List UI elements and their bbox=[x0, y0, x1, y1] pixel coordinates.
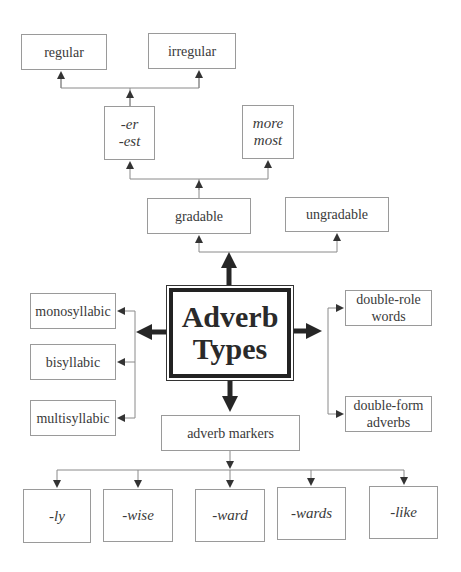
monosyllabic-node: monosyllabic bbox=[30, 293, 116, 329]
center-title-line1: Adverb bbox=[182, 301, 279, 333]
most-label: most bbox=[254, 132, 282, 149]
er-est-node: -er -est bbox=[104, 106, 155, 160]
suffix-like-label: -like bbox=[390, 504, 417, 521]
double-form-adverbs-node: double-form adverbs bbox=[345, 396, 432, 432]
ungradable-label: ungradable bbox=[306, 206, 368, 223]
multisyllabic-node: multisyllabic bbox=[30, 400, 116, 436]
multisyllabic-label: multisyllabic bbox=[36, 410, 109, 427]
suffix-like-node: -like bbox=[369, 486, 438, 539]
irregular-node: irregular bbox=[148, 33, 236, 69]
ungradable-node: ungradable bbox=[285, 197, 389, 232]
monosyllabic-label: monosyllabic bbox=[35, 303, 110, 320]
suffix-ly-node: -ly bbox=[23, 489, 91, 543]
more-label: more bbox=[253, 115, 283, 132]
bisyllabic-label: bisyllabic bbox=[46, 354, 100, 371]
suffix-wards-label: -wards bbox=[291, 505, 332, 522]
adverb-types-center-node: Adverb Types bbox=[166, 285, 294, 381]
double-role-label: double-role bbox=[356, 291, 421, 308]
adverbs-label: adverbs bbox=[367, 414, 411, 431]
double-form-label: double-form bbox=[354, 397, 424, 414]
suffix-ward-node: -ward bbox=[195, 489, 265, 542]
regular-label: regular bbox=[44, 44, 84, 61]
adverb-markers-label: adverb markers bbox=[187, 425, 274, 442]
regular-node: regular bbox=[21, 34, 107, 70]
words-label: words bbox=[371, 308, 405, 325]
center-title-line2: Types bbox=[193, 333, 267, 365]
gradable-label: gradable bbox=[175, 208, 223, 225]
est-label: -est bbox=[119, 133, 141, 150]
suffix-ly-label: -ly bbox=[49, 508, 65, 525]
gradable-node: gradable bbox=[147, 198, 251, 234]
adverb-markers-node: adverb markers bbox=[161, 415, 300, 451]
bisyllabic-node: bisyllabic bbox=[30, 344, 116, 380]
suffix-wards-node: -wards bbox=[277, 487, 346, 540]
suffix-wise-label: -wise bbox=[122, 507, 154, 524]
more-most-node: more most bbox=[242, 105, 294, 159]
suffix-wise-node: -wise bbox=[103, 489, 173, 542]
suffix-ward-label: -ward bbox=[212, 507, 247, 524]
irregular-label: irregular bbox=[168, 43, 216, 60]
er-label: -er bbox=[121, 116, 139, 133]
double-role-words-node: double-role words bbox=[345, 290, 432, 326]
